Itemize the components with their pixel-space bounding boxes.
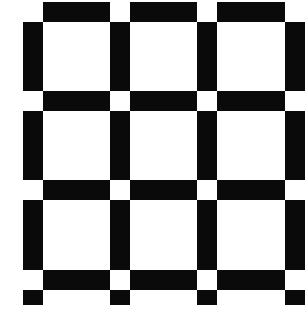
intersection-square <box>110 91 130 111</box>
bottom-strip-gap <box>43 290 110 305</box>
horizontal-bar <box>23 180 305 200</box>
intersection-square <box>285 91 305 111</box>
horizontal-bar <box>23 2 305 22</box>
vertical-bar <box>23 2 43 305</box>
intersection-square <box>285 270 305 290</box>
vertical-bar <box>110 2 130 305</box>
intersection-square <box>110 2 130 22</box>
intersection-square <box>23 180 43 200</box>
intersection-square <box>197 91 217 111</box>
intersection-square <box>23 2 43 22</box>
horizontal-bar <box>23 270 305 290</box>
intersection-square <box>197 180 217 200</box>
vertical-bar <box>197 2 217 305</box>
horizontal-bar <box>23 91 305 111</box>
intersection-square <box>23 91 43 111</box>
intersection-square <box>197 2 217 22</box>
bottom-strip-gap <box>130 290 197 305</box>
intersection-square <box>23 270 43 290</box>
intersection-square <box>285 180 305 200</box>
hermann-grid-figure <box>0 0 308 313</box>
intersection-square <box>197 270 217 290</box>
intersection-square <box>110 180 130 200</box>
intersection-square <box>285 2 305 22</box>
intersection-square <box>110 270 130 290</box>
bottom-strip-gap <box>217 290 285 305</box>
vertical-bar <box>285 2 305 305</box>
